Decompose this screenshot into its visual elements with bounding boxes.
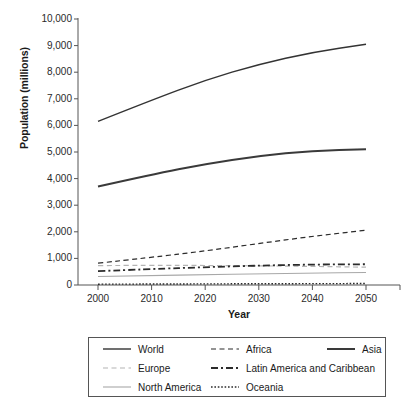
legend-line-sample [103, 363, 131, 373]
legend-item-oceania[interactable]: Oceania [211, 377, 283, 397]
x-axis-tick-label: 2020 [182, 293, 228, 304]
x-axis-label: Year [78, 308, 400, 320]
series-line-europe [98, 265, 366, 267]
series-line-africa [98, 230, 366, 263]
legend-row: EuropeLatin America and Caribbean [89, 358, 385, 378]
legend-item-asia[interactable]: Asia [327, 339, 381, 359]
population-projection-chart: Population (millions) 01,0002,0003,0004,… [0, 0, 412, 412]
legend-item-label: Oceania [246, 382, 283, 393]
series-line-oceania [98, 284, 366, 285]
x-axis-tick-label: 2030 [236, 293, 282, 304]
legend-line-sample [211, 382, 239, 392]
legend-item-label: Latin America and Caribbean [246, 363, 375, 374]
series-line-north-america [98, 273, 366, 277]
legend-item-label: Europe [138, 363, 170, 374]
series-line-asia [98, 149, 366, 186]
legend-item-label: Asia [362, 344, 381, 355]
legend-line-sample [211, 344, 239, 354]
legend-item-world[interactable]: World [103, 339, 164, 359]
legend-line-sample [211, 363, 239, 373]
legend-line-sample [103, 382, 131, 392]
legend-line-sample [327, 344, 355, 354]
legend-item-label: Africa [246, 344, 272, 355]
x-axis-tick-label: 2040 [289, 293, 335, 304]
legend: WorldAfricaAsiaEuropeLatin America and C… [88, 337, 386, 397]
legend-row: WorldAfricaAsia [89, 339, 385, 359]
series-line-world [98, 44, 366, 121]
series-line-latin-america-and-caribbean [98, 264, 366, 271]
legend-item-europe[interactable]: Europe [103, 358, 170, 378]
x-axis-tick-label: 2010 [129, 293, 175, 304]
legend-item-label: World [138, 344, 164, 355]
legend-line-sample [103, 344, 131, 354]
legend-item-africa[interactable]: Africa [211, 339, 272, 359]
legend-item-north-america[interactable]: North America [103, 377, 201, 397]
x-axis-tick-label: 2000 [75, 293, 121, 304]
legend-row: North AmericaOceania [89, 377, 385, 397]
legend-item-latin-america-and-caribbean[interactable]: Latin America and Caribbean [211, 358, 375, 378]
x-axis-tick-label: 2050 [343, 293, 389, 304]
legend-item-label: North America [138, 382, 201, 393]
